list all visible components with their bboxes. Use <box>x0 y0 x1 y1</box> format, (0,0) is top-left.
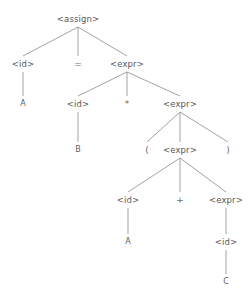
tree-node-terminal-n8: B <box>75 146 81 154</box>
parse-tree-diagram: <assign><id>=<expr>A<id>*<expr>B(<expr>)… <box>0 0 252 303</box>
tree-edge-layer <box>0 0 252 303</box>
tree-edge-n3-n7 <box>127 72 180 96</box>
tree-node-terminal-n15: A <box>125 238 131 246</box>
tree-edge-n3-n5 <box>78 72 127 96</box>
tree-edge-n0-n1 <box>23 27 78 56</box>
tree-node-terminal-n17: C <box>223 278 229 286</box>
tree-node-nonterminal-n1: <id> <box>12 60 34 69</box>
tree-node-punct-n9: ( <box>145 146 149 155</box>
tree-node-punct-n2: = <box>74 60 82 69</box>
tree-node-nonterminal-n7: <expr> <box>163 100 197 109</box>
tree-node-punct-n11: ) <box>226 146 230 155</box>
tree-node-nonterminal-n12: <id> <box>117 196 139 205</box>
tree-edge-n10-n12 <box>128 158 180 192</box>
tree-node-nonterminal-n16: <id> <box>215 238 237 247</box>
tree-edge-n10-n14 <box>180 158 226 192</box>
tree-node-nonterminal-n5: <id> <box>67 100 89 109</box>
tree-edge-n7-n11 <box>180 112 228 142</box>
tree-node-nonterminal-n3: <expr> <box>110 60 144 69</box>
tree-edge-n0-n3 <box>78 27 127 56</box>
tree-node-nonterminal-n0: <assign> <box>57 15 99 24</box>
tree-edge-n7-n9 <box>147 112 180 142</box>
tree-node-punct-n6: * <box>125 100 130 109</box>
tree-node-punct-n13: + <box>176 196 184 205</box>
tree-node-nonterminal-n14: <expr> <box>209 196 243 205</box>
tree-node-terminal-n4: A <box>20 100 26 108</box>
tree-node-nonterminal-n10: <expr> <box>163 146 197 155</box>
